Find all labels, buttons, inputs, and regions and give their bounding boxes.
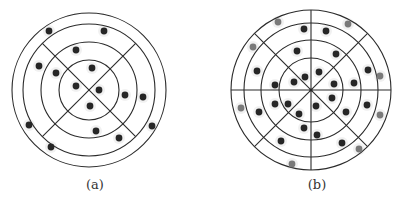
dark-dot [313, 103, 320, 110]
gray-dot [345, 21, 352, 28]
dark-dot [351, 80, 358, 87]
center-point [309, 88, 312, 91]
gray-dot [377, 112, 384, 119]
dark-dot [339, 140, 346, 147]
dark-dot [46, 28, 53, 35]
dark-dot [278, 138, 285, 145]
gray-dot [250, 44, 257, 51]
dark-dot [48, 144, 55, 151]
dark-dot [323, 28, 330, 35]
gray-dot [275, 19, 282, 26]
dark-dot [331, 81, 338, 88]
dark-dot [149, 123, 156, 130]
dark-dot [365, 67, 372, 74]
dark-dot [116, 135, 123, 142]
panel-b-polar-grid [231, 10, 391, 170]
dark-dot [291, 79, 298, 86]
dark-dot [36, 63, 43, 70]
dark-dot [285, 101, 292, 108]
dark-dot [254, 68, 261, 75]
dark-dot [301, 26, 308, 33]
dark-dot [93, 128, 100, 135]
gray-dot [377, 73, 384, 80]
dark-dot [343, 109, 350, 116]
dark-dot [96, 87, 103, 94]
dark-dot [53, 70, 60, 77]
dark-dot [256, 109, 263, 116]
dark-dot [73, 47, 80, 54]
dark-dot [272, 101, 279, 108]
dark-dot [294, 48, 301, 55]
dark-dot [140, 94, 147, 101]
dark-dot [272, 82, 279, 89]
dark-dot [302, 74, 309, 81]
panel-a-polar-grid [12, 13, 166, 167]
dark-dot [73, 83, 80, 90]
dark-dot [89, 65, 96, 72]
dark-dot [314, 132, 321, 139]
dark-dot [316, 69, 323, 76]
dark-dot [329, 95, 336, 102]
dark-dot [301, 125, 308, 132]
dark-dot [333, 51, 340, 58]
dark-dot [296, 111, 303, 118]
dark-dot [364, 102, 371, 109]
polar-grid-diagram [0, 0, 399, 202]
dark-dot [101, 28, 108, 35]
gray-dot [238, 105, 245, 112]
dark-dot [26, 122, 33, 129]
caption-b: (b) [297, 177, 337, 192]
dark-dot [122, 92, 129, 99]
gray-dot [289, 161, 296, 168]
caption-a: (a) [75, 177, 115, 192]
dark-dot [87, 103, 94, 110]
gray-dot [356, 146, 363, 153]
